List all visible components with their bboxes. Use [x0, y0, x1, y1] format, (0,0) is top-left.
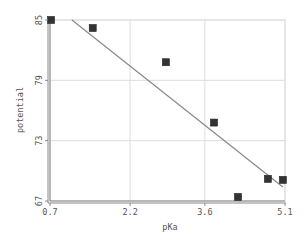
- y-tick-label: 85: [34, 15, 44, 25]
- plot-border: [50, 20, 285, 201]
- data-point-square: [48, 17, 55, 24]
- data-point-square: [89, 25, 96, 32]
- x-tick-label: 3.6: [197, 207, 212, 217]
- x-tick-label: 2.2: [122, 207, 137, 217]
- data-points: [48, 17, 287, 201]
- trendline: [72, 20, 283, 187]
- x-axis-label: pKa: [162, 222, 177, 232]
- data-point-square: [162, 59, 169, 66]
- x-tick-label: 0.7: [42, 207, 57, 217]
- y-axis-ticks: 67737985: [34, 15, 48, 206]
- regression-line: [72, 20, 283, 187]
- axes: [48, 18, 286, 203]
- y-axis-label: potential: [15, 87, 25, 133]
- y-tick-label: 67: [34, 196, 44, 206]
- x-tick-label: 5.1: [277, 207, 292, 217]
- y-tick-label: 73: [34, 136, 44, 146]
- data-point-square: [279, 176, 286, 183]
- grid-lines: [50, 20, 285, 201]
- x-axis-ticks: 0.72.23.65.1: [42, 203, 292, 217]
- data-point-square: [210, 119, 217, 126]
- y-tick-label: 79: [34, 75, 44, 85]
- scatter-chart: 0.72.23.65.1 67737985 pKa potential: [0, 0, 307, 244]
- data-point-square: [264, 175, 271, 182]
- data-point-square: [235, 193, 242, 200]
